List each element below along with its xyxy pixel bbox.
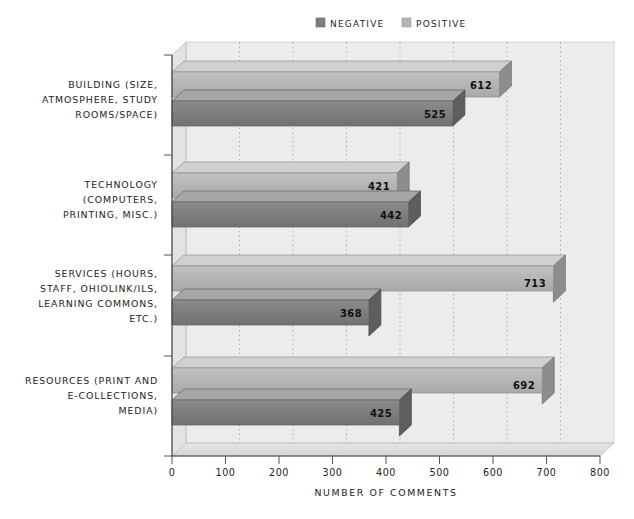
bar-negative-building <box>172 101 453 126</box>
category-label-resources-line-2: MEDIA) <box>119 405 158 416</box>
x-tick-label-200: 200 <box>269 467 289 478</box>
legend-swatch-positive <box>402 18 411 27</box>
bar-negative-technology-top <box>172 191 421 202</box>
category-label-services-line-2: LEARNING COMMONS, <box>38 298 158 309</box>
bar-negative-resources-top <box>172 389 411 400</box>
bar-group-building: 612 525 <box>172 61 511 126</box>
category-label-resources-line-1: E-COLLECTIONS, <box>67 390 158 401</box>
category-label-resources-line-0: RESOURCES (PRINT AND <box>25 375 158 386</box>
bar-positive-technology-top <box>172 162 409 173</box>
category-label-technology-line-0: TECHNOLOGY <box>84 179 158 190</box>
category-label-building-line-2: ROOMS/SPACE) <box>75 109 158 120</box>
value-label-positive-services: 713 <box>524 278 546 289</box>
value-label-negative-services: 368 <box>340 308 362 319</box>
category-label-technology-line-1: (COMPUTERS, <box>83 194 158 205</box>
x-tick-label-400: 400 <box>376 467 396 478</box>
bar-group-technology: 421 442 <box>172 162 421 227</box>
legend-swatch-negative <box>316 18 325 27</box>
value-label-negative-technology: 442 <box>380 210 402 221</box>
value-label-positive-technology: 421 <box>368 181 390 192</box>
legend-label-negative: NEGATIVE <box>330 19 384 29</box>
x-tick-label-300: 300 <box>322 467 342 478</box>
bar-negative-technology <box>172 202 409 227</box>
x-tick-label-600: 600 <box>483 467 503 478</box>
chart-svg: NEGATIVE POSITIVE <box>0 0 634 519</box>
value-label-positive-building: 612 <box>470 80 492 91</box>
bar-positive-building-top <box>172 61 511 72</box>
x-tick-label-700: 700 <box>536 467 556 478</box>
value-label-negative-resources: 425 <box>370 408 392 419</box>
bar-chart: NEGATIVE POSITIVE <box>0 0 634 519</box>
value-label-negative-building: 525 <box>424 109 446 120</box>
x-tick-label-0: 0 <box>169 467 176 478</box>
value-label-positive-resources: 692 <box>513 380 535 391</box>
x-tick-label-100: 100 <box>215 467 235 478</box>
bar-negative-building-top <box>172 90 465 101</box>
x-tick-label-500: 500 <box>429 467 449 478</box>
category-label-building-line-0: BUILDING (SIZE, <box>68 79 158 90</box>
bar-positive-services <box>172 266 553 291</box>
x-tick-label-800: 800 <box>590 467 610 478</box>
bar-negative-resources <box>172 400 399 425</box>
category-label-services-line-1: STAFF, OHIOLINK/ILS, <box>40 283 158 294</box>
category-label-services-line-3: ETC.) <box>129 313 158 324</box>
legend-label-positive: POSITIVE <box>416 19 466 29</box>
x-axis-tick-labels: 0 100 200 300 400 500 600 700 800 <box>169 467 610 478</box>
bar-positive-resources-top <box>172 357 554 368</box>
category-label-services-line-0: SERVICES (HOURS, <box>55 268 158 279</box>
bar-negative-services-top <box>172 289 381 300</box>
category-label-building-line-1: ATMOSPHERE, STUDY <box>42 94 158 105</box>
category-label-technology-line-2: PRINTING, MISC.) <box>63 209 158 220</box>
bar-positive-services-top <box>172 255 565 266</box>
x-axis-title: NUMBER OF COMMENTS <box>314 487 457 498</box>
